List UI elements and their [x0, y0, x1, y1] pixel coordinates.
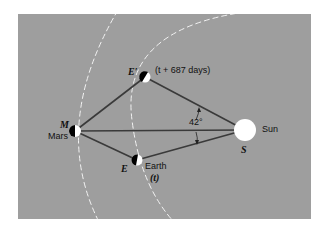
- mars-name-label: Mars: [48, 132, 68, 141]
- earth-later-caption: (t + 687 days): [155, 66, 210, 75]
- sun-name-label: Sun: [262, 125, 278, 134]
- earth-later-symbol-label: E′: [128, 67, 137, 77]
- earth-name-label: Earth: [145, 162, 167, 171]
- line-earth-sun: [137, 130, 245, 160]
- mars-symbol-label: M: [60, 120, 69, 130]
- earth-time-caption: (t): [150, 173, 159, 183]
- line-mars-earth: [75, 131, 137, 160]
- orbit-diagram: [0, 0, 325, 230]
- angle-label: 42°: [189, 118, 203, 127]
- earth-icon: [131, 154, 142, 165]
- sun-icon: [234, 119, 256, 141]
- sun-symbol-label: S: [241, 145, 247, 155]
- earth-later-icon: [139, 71, 150, 82]
- line-mars-sun: [75, 130, 245, 131]
- mars-orbit-arc: [78, 10, 118, 222]
- earth-symbol-label: E: [121, 164, 128, 174]
- arrowhead-upper: [197, 107, 201, 112]
- earth-orbit-arc: [131, 12, 245, 222]
- mars-icon: [69, 125, 81, 137]
